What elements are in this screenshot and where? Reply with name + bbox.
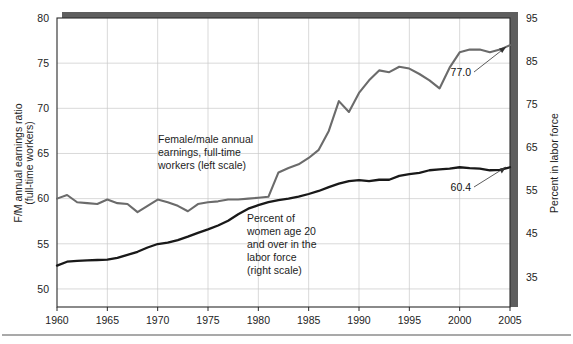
black-annotation-line-5: (right scale) [247, 264, 302, 276]
black-end-value-label: 60.4 [451, 181, 472, 193]
black-annotation-line-4: labor force [247, 251, 297, 263]
gray-series-annotation: Female/male annual earnings, full-time w… [157, 133, 253, 171]
x-axis-tick-label: 1985 [297, 314, 321, 326]
y-axis-left-tick-label: 50 [37, 283, 49, 295]
y-axis-right-tick-label: 55 [526, 184, 538, 196]
y-axis-left-tick-label: 65 [37, 147, 49, 159]
y-axis-right-tick-label: 85 [526, 55, 538, 67]
x-axis-tick-label: 1980 [247, 314, 271, 326]
y-axis-left-tick-label: 70 [37, 102, 49, 114]
black-annotation-line-2: women age 20 [246, 225, 316, 237]
x-axis-tick-label: 1995 [398, 314, 422, 326]
y-axis-left-title-line2: (full-time workers) [23, 121, 35, 204]
x-axis-tick-label: 2005 [498, 314, 522, 326]
gray-annotation-line-3: workers (left scale) [157, 159, 246, 171]
chart-figure: 50556065707580 35455565758595 1960196519… [0, 0, 573, 344]
y-axis-right-tick-label: 45 [526, 227, 538, 239]
y-axis-left-tick-label: 80 [37, 12, 49, 24]
black-annotation-line-3: and over in the [247, 238, 317, 250]
y-axis-right-tick-label: 65 [526, 141, 538, 153]
y-axis-right-tick-label: 75 [526, 98, 538, 110]
x-axis-tick-label: 1960 [45, 314, 69, 326]
y-axis-left-tick-label: 55 [37, 238, 49, 250]
x-axis-tick-label: 1970 [146, 314, 170, 326]
y-axis-right-title: Percent in labor force [548, 113, 560, 213]
shadow-right-bar [510, 12, 518, 307]
black-annotation-line-1: Percent of [247, 212, 295, 224]
x-axis-tick-label: 2000 [448, 314, 472, 326]
x-axis-tick-label: 1965 [96, 314, 120, 326]
y-axis-right-tick-label: 95 [526, 12, 538, 24]
gray-annotation-line-2: earnings, full-time [158, 146, 241, 158]
y-axis-left-tick-label: 75 [37, 57, 49, 69]
gray-annotation-line-1: Female/male annual [158, 133, 253, 145]
x-axis-tick-label: 1990 [347, 314, 371, 326]
dual-axis-line-chart: 50556065707580 35455565758595 1960196519… [0, 0, 573, 344]
y-axis-right-tick-label: 35 [526, 271, 538, 283]
x-axis-tick-label: 1975 [196, 314, 220, 326]
gray-end-value-label: 77.0 [451, 66, 472, 78]
y-axis-left-tick-label: 60 [37, 192, 49, 204]
